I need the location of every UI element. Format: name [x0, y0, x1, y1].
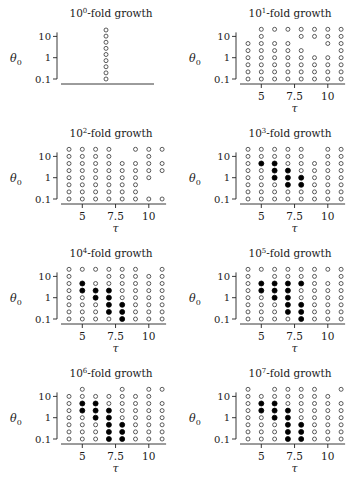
data-point-open: [313, 169, 317, 173]
data-point-open: [313, 56, 317, 60]
data-point-open: [120, 169, 124, 173]
data-point-open: [134, 430, 138, 434]
data-point-open: [107, 162, 111, 166]
y-tick-label: 1: [45, 292, 51, 303]
data-point-open: [326, 402, 330, 406]
data-point-open: [339, 296, 343, 300]
y-tick-label: 0.1: [35, 74, 51, 85]
data-point-open: [104, 34, 108, 38]
data-point-open: [273, 49, 277, 53]
data-point-open: [259, 154, 263, 158]
x-axis-label: τ: [113, 462, 120, 475]
y-tick-label: 10: [217, 391, 230, 402]
data-point-open: [80, 147, 84, 151]
data-point-open: [286, 394, 290, 398]
data-point-open: [259, 70, 263, 74]
data-point-open: [80, 310, 84, 314]
data-point-filled: [120, 429, 125, 434]
data-point-open: [259, 197, 263, 201]
panel-title: 102-fold growth: [69, 127, 152, 139]
data-point-open: [67, 183, 71, 187]
data-point-open: [339, 409, 343, 413]
data-point-open: [94, 183, 98, 187]
data-point-open: [313, 317, 317, 321]
data-point-open: [246, 56, 250, 60]
data-point-open: [107, 147, 111, 151]
data-point-open: [313, 423, 317, 427]
data-point-filled: [259, 281, 264, 286]
data-point-open: [339, 274, 343, 278]
y-tick-label: 10: [38, 391, 51, 402]
data-point-open: [107, 317, 111, 321]
data-point-open: [147, 282, 151, 286]
data-point-open: [273, 77, 277, 81]
data-point-open: [104, 53, 108, 57]
data-point-open: [313, 162, 317, 166]
data-point-open: [80, 190, 84, 194]
data-point-open: [326, 282, 330, 286]
data-point-open: [259, 437, 263, 441]
data-point-open: [259, 416, 263, 420]
data-point-open: [259, 34, 263, 38]
data-point-open: [134, 409, 138, 413]
data-point-open: [246, 423, 250, 427]
data-point-open: [259, 423, 263, 427]
data-point-open: [134, 197, 138, 201]
data-point-open: [160, 267, 164, 271]
data-point-filled: [272, 281, 277, 286]
y-tick-label: 1: [224, 412, 230, 423]
data-point-open: [273, 303, 277, 307]
data-point-filled: [272, 288, 277, 293]
data-point-open: [120, 402, 124, 406]
data-point-filled: [106, 309, 111, 314]
data-point-open: [94, 162, 98, 166]
data-point-open: [134, 282, 138, 286]
data-point-open: [94, 190, 98, 194]
panel-3-fold: 103-fold growthθ01010.157.510τ: [179, 120, 358, 241]
data-point-open: [326, 190, 330, 194]
data-point-open: [94, 282, 98, 286]
data-point-filled: [299, 182, 304, 187]
data-point-open: [339, 63, 343, 67]
data-point-open: [160, 430, 164, 434]
data-point-filled: [299, 309, 304, 314]
data-point-open: [313, 274, 317, 278]
y-tick-label: 0.1: [214, 194, 230, 205]
data-point-open: [259, 394, 263, 398]
data-point-open: [67, 162, 71, 166]
data-point-open: [286, 42, 290, 46]
data-point-open: [313, 70, 317, 74]
data-point-open: [134, 289, 138, 293]
y-tick-label: 0.1: [214, 434, 230, 445]
data-point-open: [273, 183, 277, 187]
y-tick-label: 10: [38, 151, 51, 162]
data-point-open: [326, 70, 330, 74]
data-point-open: [160, 387, 164, 391]
y-tick-label: 1: [224, 172, 230, 183]
data-point-open: [339, 183, 343, 187]
data-point-open: [147, 437, 151, 441]
data-point-open: [160, 274, 164, 278]
data-point-open: [107, 282, 111, 286]
data-point-open: [120, 409, 124, 413]
data-point-filled: [285, 422, 290, 427]
data-point-open: [80, 387, 84, 391]
panel-5-fold: 105-fold growthθ01010.157.510τ: [179, 240, 358, 361]
data-point-open: [259, 49, 263, 53]
data-point-open: [107, 402, 111, 406]
data-point-open: [147, 289, 151, 293]
data-point-open: [299, 63, 303, 67]
data-point-open: [104, 71, 108, 75]
x-tick-label: 7.5: [107, 210, 124, 222]
data-point-filled: [285, 437, 290, 442]
data-point-open: [313, 190, 317, 194]
data-point-open: [326, 162, 330, 166]
x-tick-label: 5: [258, 330, 265, 342]
data-point-open: [134, 310, 138, 314]
data-point-open: [147, 154, 151, 158]
data-point-open: [339, 154, 343, 158]
data-point-open: [246, 394, 250, 398]
data-point-filled: [93, 288, 98, 293]
data-point-open: [94, 430, 98, 434]
data-point-open: [339, 147, 343, 151]
